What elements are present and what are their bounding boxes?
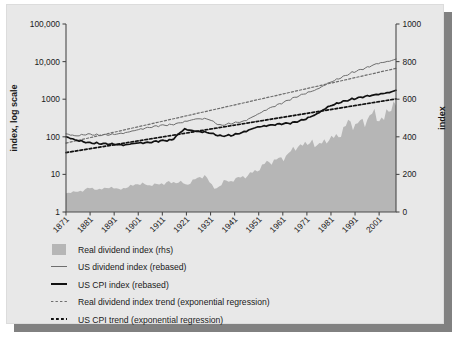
chart-canvas: 100,00010,000100010010110008006004002000…	[0, 0, 460, 345]
x-tick-label: 2001	[364, 214, 384, 234]
legend-label: Real dividend index (rhs)	[78, 245, 173, 255]
legend-item: US CPI trend (exponential regression)	[51, 315, 223, 325]
x-axis: 1871188118911901191119211931194119511961…	[51, 212, 385, 235]
x-tick-label: 1941	[219, 214, 239, 234]
y-tick-label-left: 1	[55, 207, 60, 217]
y-tick-label-right: 600	[403, 94, 417, 104]
y-axis-left: 100,00010,0001000100101	[30, 19, 66, 217]
y-tick-label-left: 10,000	[34, 57, 60, 67]
y-tick-label-left: 100,000	[30, 19, 61, 29]
legend-item: US dividend index (rebased)	[51, 262, 187, 272]
legend: Real dividend index (rhs)US dividend ind…	[51, 244, 270, 325]
legend-item: Real dividend index trend (exponential r…	[51, 297, 270, 307]
y-tick-label-left: 10	[51, 169, 61, 179]
figure: 100,00010,000100010010110008006004002000…	[0, 0, 460, 345]
y-tick-label-left: 100	[46, 132, 60, 142]
x-tick-label: 1991	[340, 214, 360, 234]
y-tick-label-left: 1000	[41, 94, 60, 104]
x-tick-label: 1921	[171, 214, 191, 234]
x-tick-label: 1981	[316, 214, 336, 234]
x-tick-label: 1901	[123, 214, 143, 234]
legend-label: Real dividend index trend (exponential r…	[78, 297, 270, 307]
legend-item: Real dividend index (rhs)	[52, 244, 173, 255]
y-tick-label-right: 800	[403, 57, 417, 67]
legend-label: US dividend index (rebased)	[78, 262, 187, 272]
y-axis-right: 10008006004002000	[396, 19, 421, 217]
y-tick-label-right: 200	[403, 169, 417, 179]
y-axis-title-right: index	[437, 106, 447, 130]
chart-svg: 100,00010,000100010010110008006004002000…	[0, 0, 460, 345]
x-tick-label: 1931	[195, 214, 215, 234]
x-tick-label: 1881	[75, 214, 95, 234]
y-tick-label-right: 400	[403, 132, 417, 142]
legend-label: US CPI trend (exponential regression)	[78, 315, 223, 325]
y-axis-title-left: index, log scale	[9, 84, 19, 151]
legend-label: US CPI index (rebased)	[78, 280, 169, 290]
x-tick-label: 1951	[243, 214, 263, 234]
x-tick-label: 1891	[99, 214, 119, 234]
y-tick-label-right: 1000	[403, 19, 422, 29]
legend-swatch-icon	[52, 244, 66, 255]
x-tick-label: 1971	[292, 214, 312, 234]
y-tick-label-right: 0	[403, 207, 408, 217]
x-tick-label: 1871	[51, 214, 71, 234]
x-tick-label: 1961	[267, 214, 287, 234]
legend-item: US CPI index (rebased)	[51, 280, 169, 290]
x-tick-label: 1911	[147, 214, 167, 234]
